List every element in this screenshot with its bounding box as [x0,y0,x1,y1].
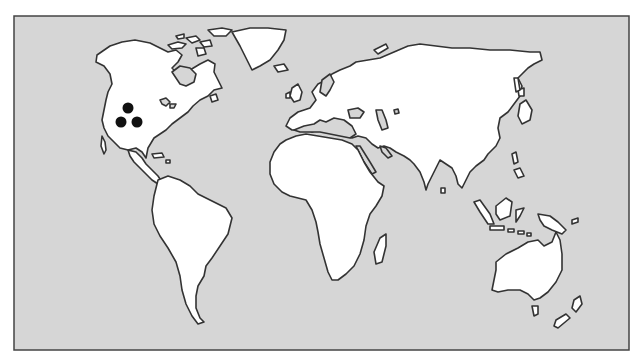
aral-sea [394,109,399,114]
solomon-islands [572,218,578,224]
tasmania [532,306,538,316]
sakhalin [514,78,520,92]
sri-lanka [441,188,445,193]
marker-dot-3 [132,117,143,128]
marker-dot-1 [123,103,134,114]
newfoundland [210,94,218,102]
black-sea [348,108,364,118]
java [490,226,504,230]
marker-dot-2 [116,117,127,128]
world-map [0,0,640,364]
